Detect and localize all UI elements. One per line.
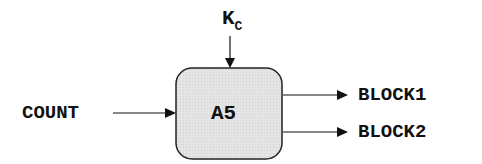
block-label: A5 bbox=[211, 103, 236, 124]
top-input-label: KC bbox=[222, 8, 242, 29]
output-label-2: BLOCK2 bbox=[358, 123, 426, 142]
top-input-subscript: C bbox=[235, 19, 243, 34]
output-arrow-1 bbox=[283, 90, 348, 100]
top-input-main: K bbox=[222, 7, 235, 30]
top-input-arrow bbox=[225, 36, 235, 68]
left-input-arrow bbox=[113, 108, 176, 118]
output-label-1: BLOCK1 bbox=[358, 86, 426, 105]
left-input-label: COUNT bbox=[22, 104, 79, 123]
output-arrow-2 bbox=[283, 127, 348, 137]
